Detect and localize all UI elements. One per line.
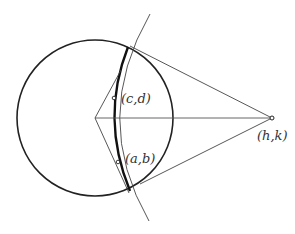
lower-tangent-line [140, 118, 272, 184]
label-hk: (h,k) [257, 128, 288, 143]
point-ab-marker [116, 160, 120, 164]
geometry-diagram: (c,d) (a,b) (h,k) [0, 0, 295, 234]
upper-radius-line [95, 70, 121, 118]
upper-tangent-line [130, 46, 272, 118]
label-cd: (c,d) [121, 91, 151, 106]
thick-arc-segment [114, 47, 130, 191]
point-hk-marker [270, 116, 274, 120]
point-cd-marker [112, 96, 116, 100]
label-ab: (a,b) [125, 151, 155, 166]
